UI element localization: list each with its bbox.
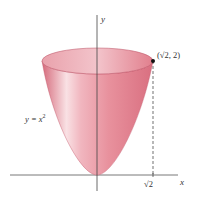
x-axis-label: x	[180, 178, 184, 187]
top-ellipse	[42, 48, 153, 74]
curve-eq-exp: 2	[43, 113, 46, 119]
y-axis-label: y	[101, 15, 105, 24]
curve-eq-prefix: y =	[25, 114, 39, 124]
paraboloid-surface	[42, 61, 153, 175]
point-label: (√2, 2)	[157, 51, 180, 60]
x-tick-label: √2	[144, 180, 153, 189]
figure-svg	[0, 0, 200, 199]
curve-equation-label: y = x2	[25, 113, 46, 124]
point-sqrt2-2	[151, 59, 155, 63]
paraboloid-figure: y x (√2, 2) y = x2 √2	[0, 0, 200, 199]
